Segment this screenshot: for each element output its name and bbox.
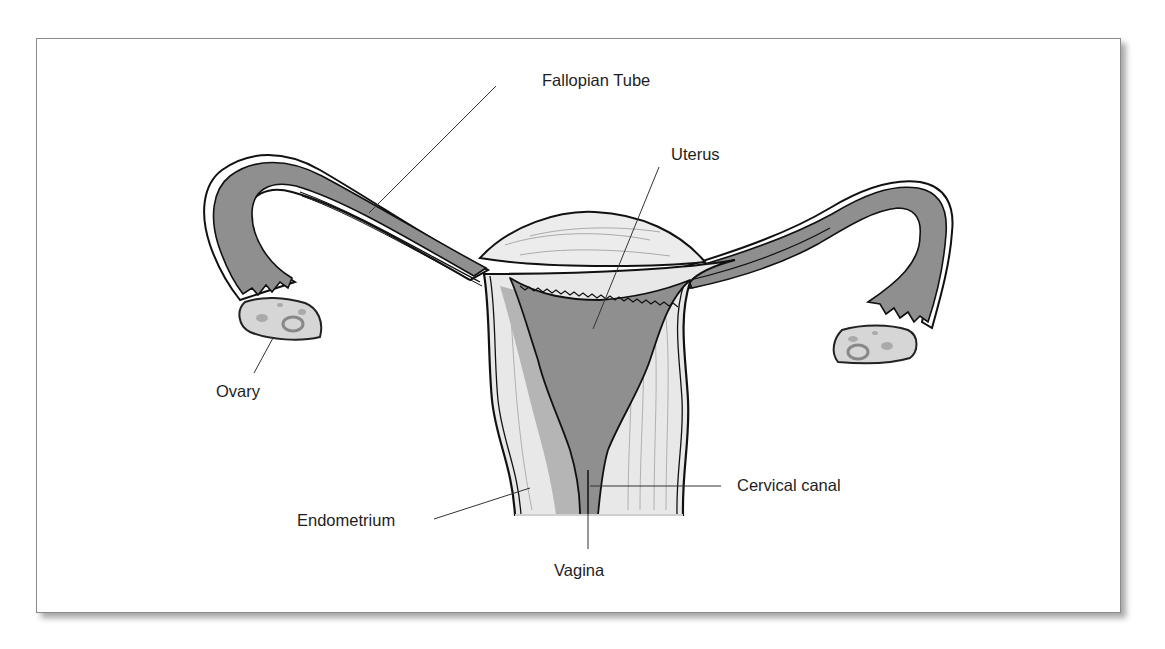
right-ovary [834, 326, 917, 364]
label-fallopian-tube: Fallopian Tube [542, 72, 650, 89]
uterus-fundus [480, 212, 705, 266]
label-vagina: Vagina [554, 562, 604, 579]
leader-ovary [254, 338, 273, 373]
left-ovary [239, 298, 321, 340]
right-fallopian-tube [680, 181, 953, 328]
label-endometrium: Endometrium [297, 512, 395, 529]
leader-fallopian-tube [369, 86, 496, 213]
left-fallopian-tube [204, 155, 488, 300]
uterus-diagram [0, 0, 1165, 649]
label-uterus: Uterus [671, 146, 720, 163]
label-ovary: Ovary [216, 383, 260, 400]
label-cervical-canal: Cervical canal [737, 477, 841, 494]
